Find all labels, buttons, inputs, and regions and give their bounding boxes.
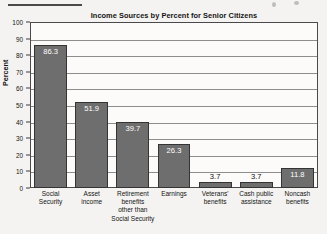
y-tick-label: 10 bbox=[16, 168, 23, 175]
bar-chart-figure: Income Sources by Percent for Senior Cit… bbox=[0, 0, 327, 234]
y-tick-label: 70 bbox=[16, 68, 23, 75]
chart-title: Income Sources by Percent for Senior Cit… bbox=[30, 11, 318, 20]
category-label-line: benefits bbox=[272, 198, 323, 206]
y-tick-label: 40 bbox=[16, 118, 23, 125]
category-label-line: benefits bbox=[107, 198, 158, 206]
y-tick-label: 100 bbox=[12, 19, 23, 26]
bar[interactable] bbox=[34, 45, 67, 188]
y-tick-label: 20 bbox=[16, 151, 23, 158]
y-tick-label: 30 bbox=[16, 135, 23, 142]
y-tick-label: 50 bbox=[16, 102, 23, 109]
y-tick-label: 80 bbox=[16, 52, 23, 59]
category-label-line: Noncash bbox=[272, 190, 323, 198]
bar-value-label: 3.7 bbox=[240, 172, 273, 181]
category-label-line: Social Security bbox=[107, 215, 158, 223]
bar-group[interactable]: 3.7 bbox=[240, 22, 273, 188]
bar-group[interactable]: 26.3 bbox=[158, 22, 191, 188]
bar-group[interactable]: 11.8 bbox=[281, 22, 314, 188]
bar[interactable] bbox=[199, 182, 232, 188]
bar-group[interactable]: 86.3 bbox=[34, 22, 67, 188]
y-tick-label: 90 bbox=[16, 35, 23, 42]
y-axis: 1009080706050403020100 bbox=[0, 22, 30, 188]
category-label: Noncashbenefits bbox=[272, 190, 323, 206]
bar-value-label: 3.7 bbox=[199, 172, 232, 181]
bar-value-label: 11.8 bbox=[281, 170, 314, 179]
bar-value-label: 86.3 bbox=[34, 47, 67, 56]
y-axis-title: Percent bbox=[1, 60, 10, 86]
bar-value-label: 51.9 bbox=[75, 104, 108, 113]
category-label-line: other than bbox=[107, 206, 158, 214]
bar-group[interactable]: 3.7 bbox=[199, 22, 232, 188]
bar[interactable] bbox=[240, 182, 273, 188]
y-tick-label: 0 bbox=[19, 185, 23, 192]
bar-group[interactable]: 51.9 bbox=[75, 22, 108, 188]
y-tick-label: 60 bbox=[16, 85, 23, 92]
bar-value-label: 26.3 bbox=[158, 146, 191, 155]
bars-layer: 86.351.939.726.33.73.711.8 bbox=[30, 22, 318, 188]
bar-group[interactable]: 39.7 bbox=[116, 22, 149, 188]
bar[interactable] bbox=[75, 102, 108, 188]
bar-value-label: 39.7 bbox=[116, 124, 149, 133]
